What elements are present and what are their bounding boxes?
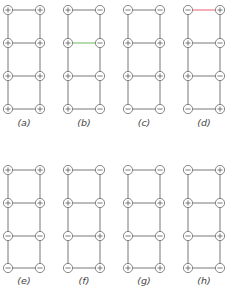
plus-node-icon	[63, 71, 72, 80]
panel-label: (h)	[197, 275, 210, 286]
panel-label: (c)	[138, 117, 151, 128]
minus-node-icon	[123, 5, 132, 14]
minus-node-icon	[155, 165, 164, 174]
panel-label: (f)	[79, 275, 90, 286]
plus-node-icon	[3, 198, 12, 207]
plus-node-icon	[95, 231, 104, 240]
ladder-panel-e: (e)	[3, 165, 44, 286]
minus-node-icon	[215, 38, 224, 47]
plus-node-icon	[123, 38, 132, 47]
ladder-diagram-figure: (a)(b)(c)(d)(e)(f)(g)(h)	[0, 0, 239, 292]
ladder-panel-b: (b)	[63, 5, 104, 128]
ladder-panel-f: (f)	[63, 165, 104, 286]
panel-label: (e)	[17, 275, 30, 286]
minus-node-icon	[95, 71, 104, 80]
minus-node-icon	[183, 165, 192, 174]
plus-node-icon	[183, 263, 192, 272]
ladder-panel-g: (g)	[123, 165, 164, 286]
plus-node-icon	[3, 38, 12, 47]
panel-label: (g)	[137, 275, 150, 286]
plus-node-icon	[215, 104, 224, 113]
plus-node-icon	[215, 5, 224, 14]
plus-node-icon	[183, 198, 192, 207]
plus-node-icon	[155, 198, 164, 207]
minus-node-icon	[63, 263, 72, 272]
minus-node-icon	[123, 165, 132, 174]
minus-node-icon	[95, 5, 104, 14]
plus-node-icon	[183, 71, 192, 80]
plus-node-icon	[35, 5, 44, 14]
minus-node-icon	[35, 263, 44, 272]
panel-label: (a)	[17, 117, 30, 128]
plus-node-icon	[35, 38, 44, 47]
plus-node-icon	[63, 165, 72, 174]
plus-node-icon	[3, 104, 12, 113]
minus-node-icon	[95, 165, 104, 174]
plus-node-icon	[35, 104, 44, 113]
minus-node-icon	[183, 5, 192, 14]
minus-node-icon	[95, 198, 104, 207]
plus-node-icon	[35, 198, 44, 207]
plus-node-icon	[3, 71, 12, 80]
minus-node-icon	[155, 104, 164, 113]
plus-node-icon	[35, 71, 44, 80]
plus-node-icon	[63, 104, 72, 113]
plus-node-icon	[123, 263, 132, 272]
minus-node-icon	[95, 104, 104, 113]
minus-node-icon	[215, 263, 224, 272]
minus-node-icon	[123, 104, 132, 113]
panel-label: (d)	[197, 117, 210, 128]
minus-node-icon	[183, 231, 192, 240]
minus-node-icon	[3, 231, 12, 240]
ladder-panel-h: (h)	[183, 165, 224, 286]
plus-node-icon	[215, 231, 224, 240]
minus-node-icon	[215, 71, 224, 80]
minus-node-icon	[155, 5, 164, 14]
plus-node-icon	[3, 5, 12, 14]
plus-node-icon	[183, 38, 192, 47]
minus-node-icon	[63, 231, 72, 240]
plus-node-icon	[155, 71, 164, 80]
minus-node-icon	[215, 198, 224, 207]
minus-node-icon	[95, 38, 104, 47]
panel-label: (b)	[77, 117, 90, 128]
plus-node-icon	[63, 38, 72, 47]
minus-node-icon	[35, 231, 44, 240]
plus-node-icon	[123, 198, 132, 207]
plus-node-icon	[155, 263, 164, 272]
plus-node-icon	[63, 5, 72, 14]
ladder-panel-d: (d)	[183, 5, 224, 128]
plus-node-icon	[35, 165, 44, 174]
minus-node-icon	[3, 263, 12, 272]
minus-node-icon	[183, 104, 192, 113]
plus-node-icon	[63, 198, 72, 207]
plus-node-icon	[155, 38, 164, 47]
ladder-panel-a: (a)	[3, 5, 44, 128]
plus-node-icon	[215, 165, 224, 174]
minus-node-icon	[155, 231, 164, 240]
plus-node-icon	[3, 165, 12, 174]
minus-node-icon	[123, 231, 132, 240]
plus-node-icon	[123, 71, 132, 80]
ladder-panel-c: (c)	[123, 5, 164, 128]
plus-node-icon	[95, 263, 104, 272]
